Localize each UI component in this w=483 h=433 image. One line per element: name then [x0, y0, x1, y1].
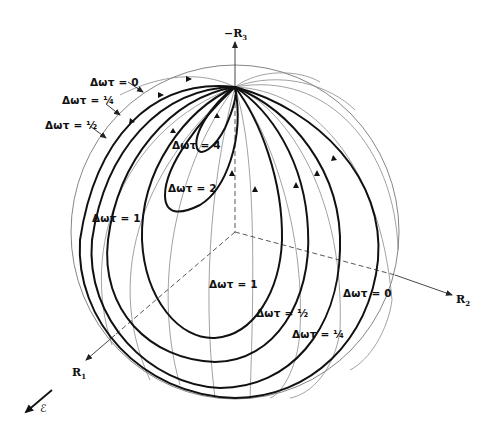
meridian-lines: [101, 73, 398, 398]
label-dwt-0-lower: Δωτ = 0: [343, 287, 392, 299]
field-vector-label: ℰ: [40, 402, 47, 415]
bloch-sphere-figure: −R3 R2 R1 ℰ Δωτ = 0 Δωτ = ¼ Δωτ = ½ Δωτ …: [0, 0, 483, 433]
label-dwt-half-upper: Δωτ = ½: [45, 119, 97, 131]
axis-label-r2: R2: [456, 293, 470, 308]
label-dwt-1-right: Δωτ = 1: [209, 278, 258, 290]
label-dwt-half-lower: Δωτ = ½: [256, 307, 308, 319]
label-dwt-2: Δωτ = 2: [168, 182, 217, 194]
axis-label-r3: −R3: [224, 27, 247, 42]
label-dwt-4: Δωτ = 4: [172, 139, 221, 151]
axis-label-r1: R1: [72, 366, 86, 381]
label-dwt-quarter-lower: Δωτ = ¼: [292, 328, 344, 340]
label-dwt-quarter-upper: Δωτ = ¼: [62, 94, 114, 106]
field-vector-arrow: [26, 390, 52, 412]
label-leaders: [90, 82, 143, 138]
label-dwt-0-upper: Δωτ = 0: [90, 76, 139, 88]
label-dwt-1-left: Δωτ = 1: [92, 212, 141, 224]
